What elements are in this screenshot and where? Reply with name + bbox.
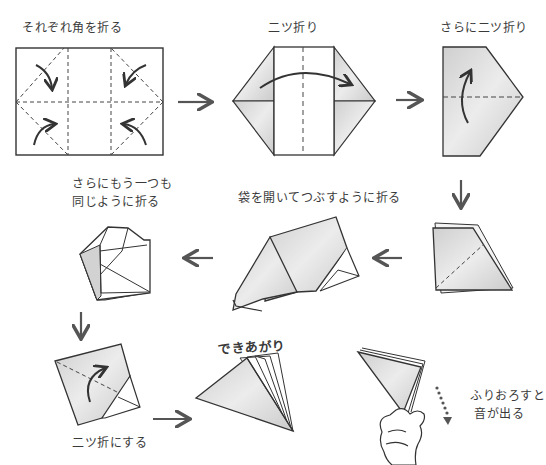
step-7-figure [55,344,140,425]
hand-icon [380,409,424,465]
origami-diagram [0,0,546,465]
step-3-figure [443,47,523,156]
step-9-figure [358,348,425,465]
step-6-figure [80,227,150,300]
step-8-figure [196,353,293,431]
step-4-figure [433,223,513,293]
swing-down-arrow [435,386,452,425]
step-5-figure [233,217,359,311]
step-1-figure [16,48,163,155]
step-2-figure [233,47,375,155]
